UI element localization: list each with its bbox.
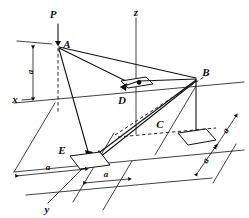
label-point-D: D (117, 94, 126, 106)
dimension-bottom-center-a (84, 179, 129, 183)
label-axis-y: y (43, 203, 50, 215)
label-dimension-right-lower-a: a (200, 155, 211, 165)
label-dimension-right-upper-a: a (220, 125, 231, 135)
label-dimension-bottom-center-a: a (104, 169, 109, 179)
ground-plane-lines (14, 86, 244, 210)
label-axis-x: x (11, 93, 18, 105)
label-point-E: E (57, 144, 65, 156)
label-dimension-vertical-a: a (25, 69, 35, 74)
label-point-C: C (156, 118, 164, 130)
axis-x (22, 99, 34, 100)
label-axis-z: z (133, 6, 139, 18)
plate-C (178, 129, 216, 145)
member-B-E-second (95, 81, 196, 161)
member-B-E (92, 80, 196, 159)
plate-D (120, 77, 153, 91)
label-dimension-bottom-left-a: a (46, 162, 51, 172)
force-diagram-svg: P z x y A B C D E a a a a a (0, 0, 249, 218)
member-A-D (59, 48, 134, 85)
member-A-B (59, 47, 196, 78)
label-point-A: A (62, 38, 70, 50)
label-load-P: P (50, 8, 57, 20)
label-point-B: B (201, 66, 209, 78)
dimension-vertical-a (17, 41, 52, 98)
figure-container: P z x y A B C D E a a a a a (0, 0, 249, 218)
